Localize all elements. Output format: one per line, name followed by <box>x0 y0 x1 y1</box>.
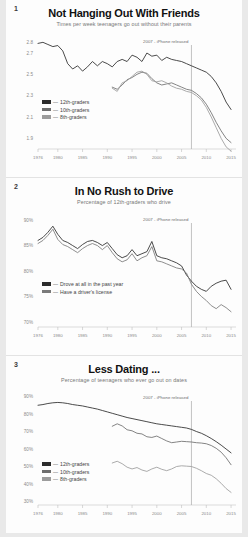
x-axis-tick-label: 2010 <box>201 511 211 516</box>
y-axis-tick-label: 80% <box>24 412 33 417</box>
x-axis-tick-label: 2005 <box>177 511 187 516</box>
iphone-release-annotation: 2007 - iPhone released <box>143 39 189 44</box>
y-axis-tick-label: 80% <box>24 269 33 274</box>
y-axis-tick-label: 2.8 <box>27 40 34 45</box>
x-axis-tick-label: 1980 <box>53 333 63 338</box>
chart-number-2: 2 <box>14 183 18 190</box>
chart-card-3: 3 Less Dating ... Percentage of teenager… <box>6 355 242 533</box>
legend-label: 10th-graders <box>60 107 89 113</box>
legend-item: —8th-graders <box>42 114 89 120</box>
legend-label: Drove at all in the past year <box>60 281 123 287</box>
y-axis-tick-label: 60% <box>24 447 33 452</box>
legend-swatch-icon <box>42 462 51 466</box>
chart-subtitle-1: Times per week teenagers go out without … <box>6 21 242 27</box>
chart-card-2: 2 In No Rush to Drive Percentage of 12th… <box>6 177 242 355</box>
series-line <box>112 461 231 492</box>
legend-dash-icon: — <box>53 469 58 475</box>
x-axis-tick-label: 2015 <box>226 155 236 160</box>
y-axis-tick-label: 70% <box>24 429 33 434</box>
y-axis-tick-label: 30% <box>24 499 33 504</box>
legend-dash-icon: — <box>53 476 58 482</box>
chart-title-1: Not Hanging Out With Friends <box>6 7 242 19</box>
x-axis-tick-label: 1976 <box>33 511 43 516</box>
legend-swatch-icon <box>42 477 51 481</box>
y-axis-tick-label: 75% <box>24 294 33 299</box>
y-axis-tick-label: 2.3 <box>27 93 34 98</box>
x-axis-tick-label: 2005 <box>177 155 187 160</box>
chart-subtitle-3: Percentage of teenagers who ever go out … <box>6 377 242 383</box>
legend-item: —12th-graders <box>42 99 89 105</box>
x-axis-tick-label: 2000 <box>152 155 162 160</box>
x-axis-tick-label: 1990 <box>102 155 112 160</box>
legend-swatch-icon <box>42 290 51 294</box>
x-axis-tick-label: 1985 <box>78 333 88 338</box>
chart-svg-3: 90%80%70%60%50%40%30%1976198019851990199… <box>6 387 242 527</box>
legend-label: 12th-graders <box>60 461 89 467</box>
y-axis-tick-label: 70% <box>24 320 33 325</box>
chart-legend-2: —Drove at all in the past year—Have a dr… <box>42 281 123 296</box>
chart-title-3: Less Dating ... <box>6 363 242 375</box>
legend-swatch-icon <box>42 282 51 286</box>
legend-dash-icon: — <box>53 289 58 295</box>
x-axis-tick-label: 1985 <box>78 155 88 160</box>
legend-label: 8th-graders <box>60 476 87 482</box>
x-axis-tick-label: 2005 <box>177 333 187 338</box>
x-axis-tick-label: 2015 <box>226 511 236 516</box>
chart-number-1: 1 <box>14 5 18 12</box>
legend-item: —Have a driver's license <box>42 289 123 295</box>
x-axis-tick-label: 1995 <box>127 511 137 516</box>
y-axis-tick-label: 2.7 <box>27 51 34 56</box>
x-axis-tick-label: 1990 <box>102 333 112 338</box>
legend-label: Have a driver's license <box>60 289 112 295</box>
legend-dash-icon: — <box>53 281 58 287</box>
x-axis-tick-label: 2010 <box>201 155 211 160</box>
x-axis-tick-label: 1990 <box>102 511 112 516</box>
chart-svg-2: 90%85%80%75%70%1976198019851990199520002… <box>6 209 242 349</box>
infographic-page: 1 Not Hanging Out With Friends Times per… <box>0 0 248 537</box>
legend-item: —10th-graders <box>42 107 89 113</box>
legend-swatch-icon <box>42 108 51 112</box>
chart-plot-area-3: 90%80%70%60%50%40%30%1976198019851990199… <box>6 387 242 527</box>
chart-legend-3: —12th-graders—10th-graders—8th-graders <box>42 461 89 484</box>
x-axis-tick-label: 2010 <box>201 333 211 338</box>
y-axis-tick-label: 90% <box>24 218 33 223</box>
legend-item: —8th-graders <box>42 476 89 482</box>
legend-item: —10th-graders <box>42 469 89 475</box>
legend-swatch-icon <box>42 100 51 104</box>
x-axis-tick-label: 1995 <box>127 333 137 338</box>
x-axis-tick-label: 1976 <box>33 333 43 338</box>
chart-plot-area-1: 2.82.72.52.32.11.91976198019851990199520… <box>6 31 242 171</box>
y-axis-tick-label: 40% <box>24 482 33 487</box>
x-axis-tick-label: 1995 <box>127 155 137 160</box>
legend-dash-icon: — <box>53 114 58 120</box>
x-axis-tick-label: 1985 <box>78 511 88 516</box>
chart-card-1: 1 Not Hanging Out With Friends Times per… <box>6 0 242 177</box>
series-line <box>38 229 231 311</box>
x-axis-tick-label: 1980 <box>53 155 63 160</box>
legend-swatch-icon <box>42 470 51 474</box>
legend-label: 8th-graders <box>60 114 87 120</box>
x-axis-tick-label: 1980 <box>53 511 63 516</box>
legend-dash-icon: — <box>53 107 58 113</box>
legend-label: 10th-graders <box>60 469 89 475</box>
y-axis-tick-label: 85% <box>24 243 33 248</box>
y-axis-tick-label: 50% <box>24 464 33 469</box>
series-line <box>112 424 231 465</box>
y-axis-tick-label: 2.5 <box>27 72 34 77</box>
chart-title-2: In No Rush to Drive <box>6 185 242 197</box>
chart-subtitle-2: Percentage of 12th-graders who drive <box>6 199 242 205</box>
y-axis-tick-label: 90% <box>24 394 33 399</box>
legend-item: —Drove at all in the past year <box>42 281 123 287</box>
chart-number-3: 3 <box>14 361 18 368</box>
x-axis-tick-label: 2015 <box>226 333 236 338</box>
x-axis-tick-label: 2000 <box>152 511 162 516</box>
x-axis-tick-label: 2000 <box>152 333 162 338</box>
legend-item: —12th-graders <box>42 461 89 467</box>
x-axis-tick-label: 1976 <box>33 155 43 160</box>
chart-legend-1: —12th-graders—10th-graders—8th-graders <box>42 99 89 122</box>
series-line <box>112 72 231 142</box>
legend-label: 12th-graders <box>60 99 89 105</box>
iphone-release-annotation: 2007 - iPhone released <box>143 217 189 222</box>
iphone-release-annotation: 2007 - iPhone released <box>143 395 189 400</box>
legend-dash-icon: — <box>53 461 58 467</box>
